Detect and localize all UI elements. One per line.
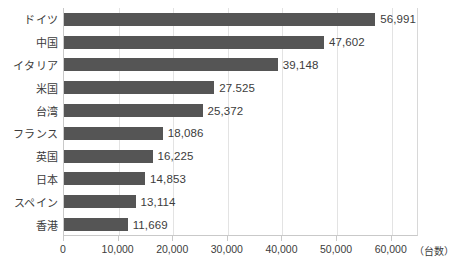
x-tick-label: 0	[60, 243, 66, 255]
x-tick-mark	[118, 236, 119, 241]
bar-value-label: 14,853	[150, 173, 186, 185]
bar-row: 47,602	[64, 31, 417, 54]
x-tick-label: 40,000	[265, 243, 297, 255]
bar-rows: 56,99147,60239,14827.52525,37218,08616,2…	[64, 8, 417, 235]
bar	[64, 58, 278, 71]
x-tick-label: 20,000	[156, 243, 188, 255]
bar-row: 14,853	[64, 168, 417, 191]
bar	[64, 104, 203, 117]
bar	[64, 13, 375, 26]
category-label: 米国	[36, 76, 58, 99]
category-label: イタリア	[13, 54, 58, 77]
bar	[64, 195, 136, 208]
x-tick-mark	[172, 236, 173, 241]
bar-row: 11,669	[64, 213, 417, 236]
category-label: ドイツ	[24, 8, 58, 31]
bar-value-label: 11,669	[133, 219, 168, 231]
x-tick-label: 60,000	[375, 243, 407, 255]
bar	[64, 150, 153, 163]
x-tick-mark	[391, 236, 392, 241]
x-tick-label: 10,000	[102, 243, 134, 255]
bar-value-label: 18,086	[168, 127, 204, 139]
bar	[64, 218, 128, 231]
bar	[64, 81, 214, 94]
category-axis-labels: ドイツ中国イタリア米国台湾フランス英国日本スペイン香港	[0, 8, 58, 236]
x-tick-label: 30,000	[211, 243, 243, 255]
bar-row: 56,991	[64, 8, 417, 31]
bar-value-label: 27.525	[219, 82, 255, 94]
category-label: 英国	[36, 145, 58, 168]
category-label: 日本	[36, 168, 58, 191]
bar-value-label: 25,372	[208, 105, 244, 117]
bar-row: 18,086	[64, 122, 417, 145]
bar-value-label: 47,602	[329, 36, 365, 48]
axis-unit-label: （台数）	[414, 243, 452, 258]
bar-row: 13,114	[64, 190, 417, 213]
category-label: スペイン	[14, 190, 58, 213]
bar-value-label: 39,148	[283, 59, 319, 71]
x-tick-mark	[281, 236, 282, 241]
bar-value-label: 16,225	[158, 150, 194, 162]
bar	[64, 127, 163, 140]
x-tick-mark	[227, 236, 228, 241]
x-tick-label: 50,000	[320, 243, 352, 255]
bar-row: 16,225	[64, 145, 417, 168]
category-label: 台湾	[36, 99, 58, 122]
x-tick-mark	[336, 236, 337, 241]
x-tick-mark	[63, 236, 64, 241]
bar-value-label: 56,991	[380, 13, 416, 25]
category-label: 中国	[36, 31, 58, 54]
bar-row: 25,372	[64, 99, 417, 122]
bar-row: 27.525	[64, 76, 417, 99]
category-label: 香港	[36, 213, 58, 236]
category-label: フランス	[13, 122, 58, 145]
bar-row: 39,148	[64, 54, 417, 77]
bar	[64, 36, 324, 49]
plot-area: 56,99147,60239,14827.52525,37218,08616,2…	[63, 8, 418, 236]
x-axis: 010,00020,00030,00040,00050,00060,000	[63, 236, 419, 258]
bar-value-label: 13,114	[141, 196, 176, 208]
bar	[64, 172, 145, 185]
